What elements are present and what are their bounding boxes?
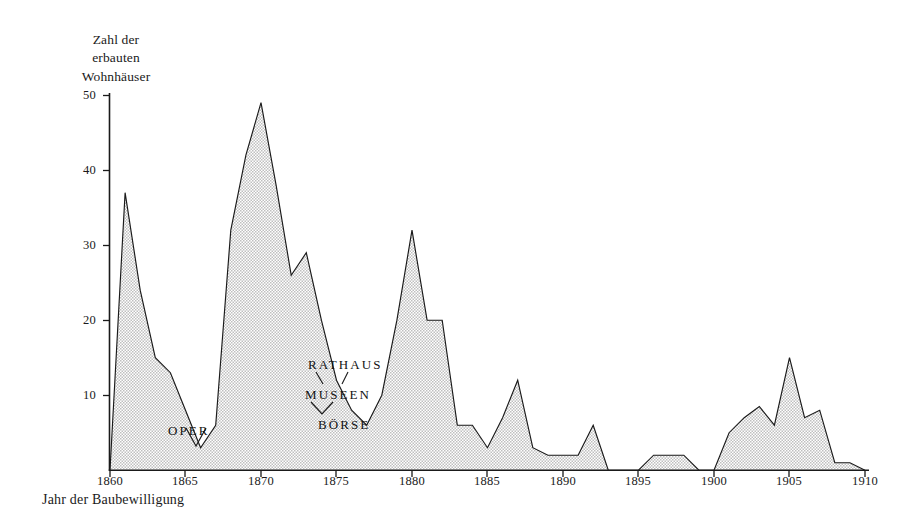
series-area: [110, 103, 865, 471]
rathaus-leader-line-right: [342, 372, 348, 384]
chart-figure: Zahl der erbauten Wohnhäuser Jahr der Ba…: [0, 0, 900, 525]
annotation-boerse: BÖRSE: [318, 417, 370, 433]
x-tick-marks: [110, 470, 865, 477]
area-chart-plot: [0, 0, 900, 525]
annotation-rathaus: RATHAUS: [308, 357, 383, 373]
annotation-museen: MUSEEN: [305, 387, 371, 403]
annotation-oper: OPER: [168, 423, 210, 439]
